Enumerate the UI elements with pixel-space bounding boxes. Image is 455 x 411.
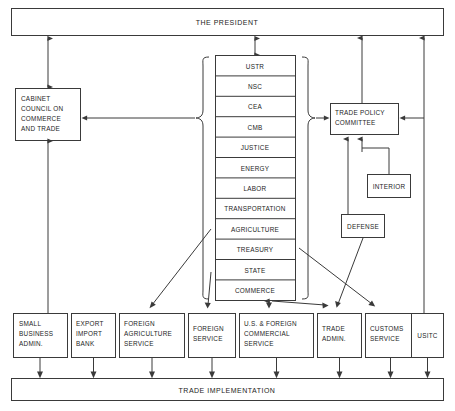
connector-state-foreign-service (205, 272, 211, 309)
agency-1-line1: EXPORT (76, 320, 104, 327)
connector-commerce-us-foreign-commercial-service (266, 301, 272, 309)
stack-item-ustr: USTR (246, 63, 265, 70)
stack-item-energy: ENERGY (241, 165, 270, 172)
connector-treasury-customs-service (299, 248, 375, 307)
agency-6-line1: CUSTOMS (370, 325, 404, 332)
stack-brace-right (302, 57, 315, 299)
interior-box: INTERIOR (368, 175, 411, 198)
agency-2-line1: FOREIGN (124, 320, 155, 327)
implementing-agency-box-us-foreign-commercial-service: U.S. & FOREIGN COMMERCIAL SERVICE (240, 314, 314, 358)
agency-3-line1: FOREIGN (193, 325, 224, 332)
connector-stack-trade-policy (316, 115, 330, 120)
agency-7-line1: USITC (417, 332, 438, 339)
cabinet-council-box: CABINET COUNCIL ON COMMERCE AND TRADE (16, 89, 81, 141)
connector-stack-cabinet-council (82, 115, 196, 120)
agency-0-line2: BUSINESS (19, 330, 53, 337)
defense-box: DEFENSE (342, 215, 385, 238)
trade-implementation-bar: TRADE IMPLEMENTATION (12, 379, 444, 401)
implementing-agency-box-usitc: USITC (412, 314, 444, 358)
connector-commerce-trade-admin (272, 301, 329, 308)
stack-brace-left (196, 57, 209, 299)
stack-item-treasury: TREASURY (237, 246, 274, 253)
connector-defense-trade-admin (335, 238, 363, 308)
connector-interior-trade-policy (362, 139, 389, 174)
stack-item-nsc: NSC (248, 83, 262, 90)
stack-item-cmb: CMB (248, 124, 263, 131)
stack-item-agriculture: AGRICULTURE (231, 226, 279, 233)
agency-4-line2: COMMERCIAL (244, 330, 290, 337)
connector-right-rail-trade-policy (400, 115, 425, 120)
connector-agencies-implementation (37, 358, 431, 378)
agency-4-line1: U.S. & FOREIGN (244, 320, 297, 327)
org-chart-diagram: THE PRESIDENT CABINET COUNCIL ON COMMERC… (0, 0, 455, 411)
trade-implementation-label: TRADE IMPLEMENTATION (179, 387, 276, 394)
agency-3-line2: SERVICE (193, 335, 223, 342)
stack-item-transportation: TRANSPORTATION (224, 205, 286, 212)
implementing-agency-box-foreign-service: FOREIGN SERVICE (189, 314, 236, 358)
agency-6-line2: SERVICE (370, 335, 400, 342)
agency-5-line1: TRADE (322, 325, 345, 332)
agency-5-line2: ADMIN. (322, 335, 346, 342)
president-label: THE PRESIDENT (196, 19, 259, 26)
cabinet-council-line1: CABINET (21, 95, 50, 102)
implementing-agency-box-trade-admin: TRADE ADMIN. (318, 314, 362, 358)
defense-label: DEFENSE (347, 223, 379, 230)
agency-1-line3: BANK (76, 340, 95, 347)
cabinet-council-line2: COUNCIL ON (21, 105, 64, 112)
stack-item-labor: LABOR (244, 185, 267, 192)
implementing-agency-box-customs-service: CUSTOMS SERVICE (366, 314, 416, 358)
trade-policy-line2: COMMITTEE (335, 119, 376, 126)
agency-stack: USTR NSC CEA CMB JUSTICE ENERGY LABOR TR… (216, 56, 296, 301)
implementing-agency-box-small-business-admin: SMALL BUSINESS ADMIN. (14, 314, 68, 358)
agency-2-line3: SERVICE (124, 340, 154, 347)
stack-item-state: STATE (245, 267, 266, 274)
stack-item-justice: JUSTICE (241, 144, 269, 151)
agency-0-line3: ADMIN. (19, 340, 43, 347)
cabinet-council-line3: COMMERCE (21, 115, 61, 122)
trade-policy-committee-box: TRADE POLICY COMMITTEE (331, 104, 399, 135)
agency-2-line2: AGRICULTURE (124, 330, 172, 337)
trade-policy-line1: TRADE POLICY (335, 109, 385, 116)
stack-item-cea: CEA (248, 103, 262, 110)
connector-agriculture-foreign-agriculture-service (150, 229, 212, 308)
implementing-agency-box-export-import-bank: EXPORT IMPORT BANK (72, 314, 116, 358)
cabinet-council-line4: AND TRADE (21, 125, 60, 132)
president-bar: THE PRESIDENT (12, 9, 444, 36)
agency-1-line2: IMPORT (76, 330, 102, 337)
implementing-agency-box-foreign-agriculture-service: FOREIGN AGRICULTURE SERVICE (120, 314, 185, 358)
interior-label: INTERIOR (373, 183, 406, 190)
org-chart-svg: THE PRESIDENT CABINET COUNCIL ON COMMERC… (0, 0, 455, 411)
agency-4-line3: SERVICE (244, 340, 274, 347)
stack-item-commerce: COMMERCE (235, 287, 275, 294)
agency-0-line1: SMALL (19, 320, 41, 327)
